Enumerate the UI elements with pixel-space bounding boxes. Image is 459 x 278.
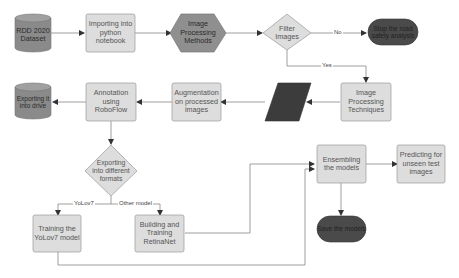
label-ensembling: Ensembling the models	[317, 145, 366, 183]
label-image-processing-techniques: Image Processing Techniques	[341, 83, 391, 121]
edge-retinanet-to-ensemble	[185, 164, 314, 233]
label-predicting: Predicting for unseen test images	[397, 145, 445, 183]
label-importing: Importing into python notebook	[86, 14, 135, 52]
edge-label-yes: Yes	[321, 62, 333, 69]
label-exporting-drive: Exporting it into drive	[15, 90, 51, 114]
label-augmentation: Augmentation on processed images	[172, 83, 221, 121]
label-rdd-dataset: RDD 2020 Dataset	[15, 22, 51, 48]
edge-label-other-model: Other model	[118, 200, 153, 207]
label-building-retinanet: Building and Training RetinaNet	[135, 215, 184, 252]
label-annotation: Annotation using RoboFlow	[86, 83, 136, 121]
label-filter-images: Filter Images	[270, 20, 304, 46]
label-save-models: Save the models	[317, 216, 366, 242]
label-training-yolov7: Training the YoLov7 model	[33, 215, 81, 252]
edge-label-yolov7: YoLov7	[73, 200, 95, 207]
label-image-processing-methods: Image Processing Methods	[176, 14, 220, 52]
node-parallelogram	[265, 83, 311, 121]
label-stop-analysis: Stop the road safety analysis	[368, 19, 418, 45]
label-exporting-formats: Exporting into different formats	[92, 157, 130, 185]
edge-label-no: No	[333, 29, 343, 36]
